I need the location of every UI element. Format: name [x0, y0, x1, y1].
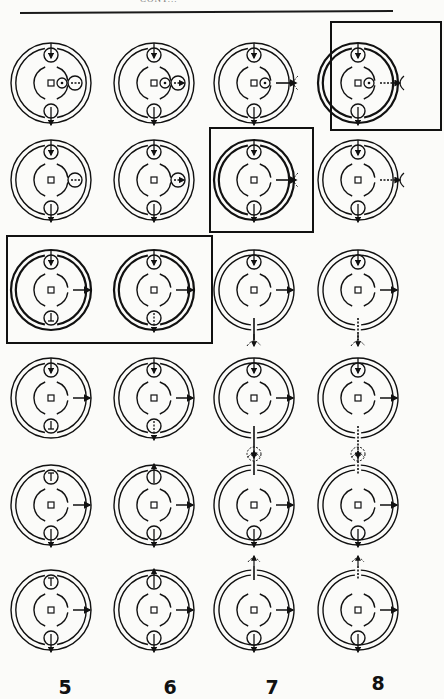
nucleus-square	[251, 395, 257, 401]
nucleus-square	[48, 607, 54, 613]
nucleus-square	[151, 80, 157, 86]
diagram-r5-c5	[11, 465, 91, 547]
nucleus-square	[355, 607, 361, 613]
nucleus-square	[48, 287, 54, 293]
diagram-r2-c7	[214, 140, 298, 222]
nucleus-square	[48, 395, 54, 401]
diagram-r3-c8	[318, 250, 398, 346]
nucleus-square	[355, 502, 361, 508]
nucleus-square	[251, 502, 257, 508]
nucleus-square	[48, 80, 54, 86]
diagram-r1-c7	[214, 43, 298, 125]
nucleus-square	[251, 287, 257, 293]
diagram-r3-c5	[11, 250, 91, 330]
diagram-r6-c6	[114, 569, 194, 652]
diagram-r6-c5	[11, 570, 91, 652]
diagram-r4-c6	[114, 358, 194, 440]
diagram-r4-c8	[318, 358, 398, 461]
nucleus-square	[151, 607, 157, 613]
column-label-5: 5	[58, 676, 71, 698]
diagram-r2-c8	[318, 140, 404, 222]
column-label-6: 6	[163, 676, 176, 698]
diagram-r2-c5	[11, 140, 91, 222]
diagram-r5-c8	[318, 451, 398, 547]
nucleus-square	[355, 80, 361, 86]
nucleus-square	[251, 177, 257, 183]
diagram-r2-c6	[114, 140, 194, 222]
highlight-box-1	[331, 22, 441, 130]
highlight-box-2	[210, 128, 313, 232]
nucleus-square	[151, 502, 157, 508]
nucleus-square	[151, 287, 157, 293]
diagram-r1-c6	[114, 43, 194, 125]
diagram-cells	[11, 43, 404, 652]
nucleus-square	[251, 80, 257, 86]
diagram-r5-c6	[114, 464, 194, 547]
nucleus-square	[355, 395, 361, 401]
nucleus-square	[48, 177, 54, 183]
diagram-r4-c7	[214, 358, 294, 461]
diagram-grid	[0, 0, 444, 699]
nucleus-square	[355, 287, 361, 293]
diagram-r5-c7	[214, 451, 294, 547]
nucleus-square	[48, 502, 54, 508]
diagram-r6-c7	[214, 556, 294, 652]
column-label-7: 7	[265, 676, 278, 698]
diagram-r6-c8	[318, 556, 398, 652]
column-label-8: 8	[371, 672, 384, 694]
nucleus-square	[355, 177, 361, 183]
nucleus-square	[151, 177, 157, 183]
nucleus-square	[151, 395, 157, 401]
diagram-r4-c5	[11, 358, 91, 438]
diagram-r3-c6	[114, 250, 194, 332]
diagram-r3-c7	[214, 250, 294, 346]
diagram-r1-c5	[11, 43, 91, 125]
nucleus-square	[251, 607, 257, 613]
